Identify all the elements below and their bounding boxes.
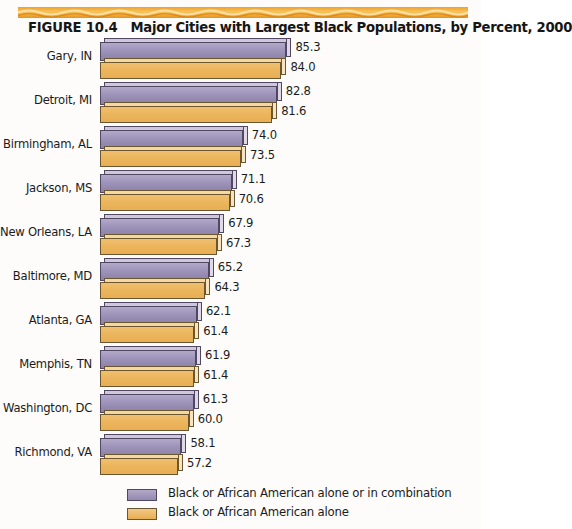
bar-side-face: [241, 146, 246, 163]
figure-title-row: FIGURE 10.4Major Cities with Largest Bla…: [28, 17, 473, 35]
bar-combination: [100, 126, 248, 145]
bar-value-label: 58.1: [190, 436, 215, 450]
bar-alone: [100, 190, 235, 207]
bar-top-face: [104, 190, 234, 194]
bar-value-label: 61.4: [203, 368, 228, 382]
bar-value-label: 73.5: [250, 148, 275, 162]
bar-value-label: 67.9: [228, 216, 253, 230]
bar-side-face: [194, 366, 199, 383]
bar-value-label: 84.0: [290, 60, 315, 74]
bar-face: [100, 370, 194, 387]
category-label: Washington, DC: [0, 401, 92, 415]
legend-label: Black or African American alone or in co…: [168, 486, 452, 500]
bar-top-face: [104, 82, 281, 86]
bar-top-face: [104, 258, 213, 262]
bar-alone: [100, 146, 246, 163]
bar-side-face: [178, 454, 183, 471]
bar-value-label: 65.2: [218, 260, 243, 274]
bar-combination: [100, 38, 291, 57]
bar-value-label: 62.1: [206, 304, 231, 318]
bar-side-face: [194, 390, 199, 409]
bar-side-face: [230, 190, 235, 207]
bar-alone: [100, 454, 183, 471]
decorative-wave-band: [18, 3, 468, 14]
bar-top-face: [104, 278, 209, 282]
bar-top-face: [104, 214, 223, 218]
bar-side-face: [243, 126, 248, 145]
bar-face: [100, 238, 217, 255]
bar-top-face: [104, 126, 247, 130]
figure-title: Major Cities with Largest Black Populati…: [131, 20, 572, 35]
bar-top-face: [104, 322, 198, 326]
bar-combination: [100, 258, 214, 277]
bar-value-label: 57.2: [187, 456, 212, 470]
bar-face: [100, 150, 241, 167]
bar-top-face: [104, 410, 193, 414]
legend-swatch-alone: [127, 508, 157, 520]
bar-side-face: [196, 346, 201, 365]
bar-face: [100, 62, 281, 79]
bar-alone: [100, 102, 277, 119]
category-label: Jackson, MS: [0, 181, 92, 195]
bar-alone: [100, 322, 199, 339]
bar-side-face: [181, 434, 186, 453]
chart-row: Gary, IN85.384.0: [0, 36, 481, 80]
bar-side-face: [194, 322, 199, 339]
bar-top-face: [104, 302, 201, 306]
bar-face: [100, 414, 189, 431]
bar-top-face: [104, 390, 198, 394]
chart-row: Washington, DC61.360.0: [0, 388, 481, 432]
bar-top-face: [104, 366, 198, 370]
chart-plot-area: Gary, IN85.384.0Detroit, MI82.881.6Birmi…: [0, 36, 481, 476]
bar-value-label: 61.4: [203, 324, 228, 338]
chart-row: Richmond, VA58.157.2: [0, 432, 481, 476]
bar-side-face: [205, 278, 210, 295]
bar-face: [100, 326, 194, 343]
legend-swatch-combination: [127, 489, 157, 501]
bar-top-face: [104, 434, 185, 438]
chart-row: Birmingham, AL74.073.5: [0, 124, 481, 168]
bar-combination: [100, 346, 201, 365]
bar-combination: [100, 434, 186, 453]
bar-side-face: [232, 170, 237, 189]
bar-alone: [100, 410, 194, 427]
bar-alone: [100, 58, 286, 75]
bar-top-face: [104, 146, 245, 150]
chart-row: Detroit, MI82.881.6: [0, 80, 481, 124]
category-label: Richmond, VA: [0, 445, 92, 459]
bar-top-face: [104, 102, 276, 106]
bar-side-face: [209, 258, 214, 277]
bar-combination: [100, 82, 282, 101]
bar-side-face: [189, 410, 194, 427]
bar-top-face: [104, 38, 290, 42]
bar-top-face: [104, 170, 236, 174]
bar-alone: [100, 366, 199, 383]
bar-combination: [100, 170, 237, 189]
bar-value-label: 81.6: [281, 104, 306, 118]
bar-top-face: [104, 234, 221, 238]
category-label: Baltimore, MD: [0, 269, 92, 283]
figure-number: FIGURE 10.4: [28, 20, 118, 35]
bar-side-face: [277, 82, 282, 101]
chart-legend: Black or African American alone or in co…: [127, 486, 481, 524]
bar-side-face: [197, 302, 202, 321]
bar-top-face: [104, 58, 285, 62]
bar-face: [100, 194, 230, 211]
bar-value-label: 82.8: [286, 84, 311, 98]
bar-value-label: 70.6: [239, 192, 264, 206]
category-label: Memphis, TN: [0, 357, 92, 371]
bar-value-label: 71.1: [241, 172, 266, 186]
bar-face: [100, 458, 178, 475]
legend-label: Black or African American alone: [168, 505, 349, 519]
bar-value-label: 64.3: [214, 280, 239, 294]
chart-row: Baltimore, MD65.264.3: [0, 256, 481, 300]
bar-value-label: 67.3: [226, 236, 251, 250]
bar-combination: [100, 390, 199, 409]
category-label: Gary, IN: [0, 49, 92, 63]
category-label: Atlanta, GA: [0, 313, 92, 327]
chart-row: Jackson, MS71.170.6: [0, 168, 481, 212]
legend-item: Black or African American alone or in co…: [127, 486, 481, 505]
bar-side-face: [272, 102, 277, 119]
bar-side-face: [286, 38, 291, 57]
bar-top-face: [104, 346, 200, 350]
